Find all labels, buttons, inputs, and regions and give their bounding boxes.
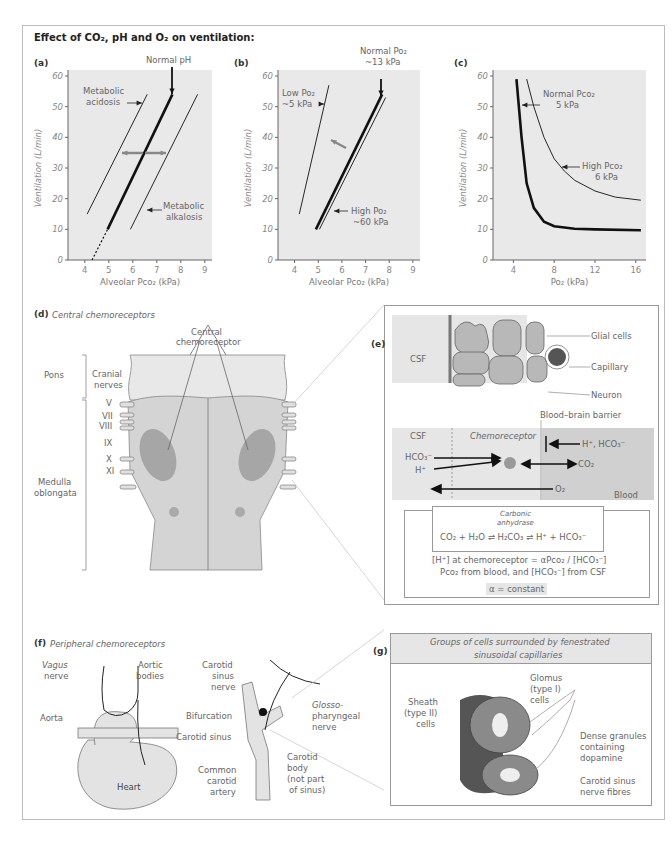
nerve-X: X	[106, 454, 112, 464]
carotid-sinus-label: Carotid sinus	[176, 732, 231, 742]
panel-g-label: (g)	[373, 646, 388, 656]
alpha-constant: α = constant	[486, 583, 547, 595]
csn-3: nerve	[211, 682, 235, 692]
nerve-VII: VII	[102, 411, 113, 421]
brainstem-drawing	[82, 325, 296, 570]
glomus-3: cells	[530, 695, 549, 705]
sheath-2: (type II)	[404, 708, 437, 718]
cranial-nerves-2: nerves	[94, 380, 123, 390]
carotid-body-3: (not part	[287, 774, 324, 784]
glosso-2: pharyngeal	[312, 711, 360, 721]
csn-2: sinus	[212, 671, 234, 681]
panel-f-title: Peripheral chemoreceptors	[50, 639, 165, 649]
heart-label: Heart	[117, 782, 141, 792]
carotid-body-2: body	[287, 763, 308, 773]
vagus-1: Vagus	[42, 660, 68, 670]
panel-e-label: (e)	[371, 339, 385, 349]
formula-note: Pco₂ from blood, and [HCO₃⁻] from CSF	[440, 567, 606, 577]
bifurcation-label: Bifurcation	[186, 711, 232, 721]
reaction-equation: CO₂ + H₂O ⇌ H₂CO₃ ⇌ H⁺ + HCO₃⁻	[440, 532, 586, 542]
nerve-V: V	[106, 398, 112, 408]
nerve-IX: IX	[104, 438, 112, 448]
carotid-body-1: Carotid	[287, 752, 318, 762]
medulla-2: oblongata	[34, 488, 77, 498]
panel-d-label: (d)	[34, 309, 49, 319]
glomus-2: (type I)	[530, 684, 561, 694]
nerve-fibres-1: Carotid sinus	[580, 776, 635, 786]
aortic-1: Aortic	[138, 660, 163, 670]
medulla-1: Medulla	[38, 477, 71, 487]
glosso-1: Glosso-	[312, 700, 343, 710]
panel-f-label: (f)	[34, 638, 46, 648]
co2-label: CO₂	[578, 459, 594, 469]
aorta-label: Aorta	[40, 713, 63, 723]
h-label: H⁺	[415, 465, 426, 475]
carotid-body-4: of sinus)	[289, 785, 325, 795]
o2-label: O₂	[555, 484, 565, 494]
vagus-2: nerve	[44, 671, 68, 681]
glosso-3: nerve	[312, 722, 336, 732]
csf2-label: CSF	[410, 431, 426, 441]
common-carotid-3: artery	[210, 787, 236, 797]
nerve-VIII: VIII	[99, 421, 112, 431]
aortic-2: bodies	[136, 671, 164, 681]
panel-d-title: Central chemoreceptors	[52, 310, 155, 320]
neuron-label: Neuron	[591, 390, 622, 400]
csn-1: Carotid	[202, 660, 233, 670]
glial-cells-label: Glial cells	[591, 331, 632, 341]
blood-label: Blood	[614, 490, 638, 500]
carotid-drawing	[242, 682, 283, 800]
sheath-1: Sheath	[408, 697, 438, 707]
panel-g-header-1: Groups of cells surrounded by fenestrate…	[430, 637, 610, 647]
cranial-nerves-1: Cranial	[92, 369, 122, 379]
h-hco3-label: H⁺, HCO₃⁻	[582, 439, 625, 449]
carbonic-1: Carbonic	[500, 510, 531, 518]
heart-drawing	[78, 712, 178, 810]
chemoreceptor-label: Chemoreceptor	[470, 431, 536, 441]
capillary-label: Capillary	[591, 362, 628, 372]
bbb-label: Blood–brain barrier	[540, 410, 621, 420]
nerve-fibres-2: nerve fibres	[580, 787, 631, 797]
sheath-3: cells	[416, 719, 435, 729]
pons-label: Pons	[44, 370, 64, 380]
common-carotid-1: Common	[198, 765, 236, 775]
granules-2: containing	[580, 742, 625, 752]
central-chemoreceptor-1: Central	[191, 327, 222, 337]
common-carotid-2: carotid	[207, 776, 236, 786]
granules-3: dopamine	[580, 753, 622, 763]
csf-label: CSF	[410, 354, 426, 364]
glomus-1: Glomus	[530, 673, 562, 683]
panel-g-header-2: sinusoidal capillaries	[474, 650, 562, 660]
central-chemoreceptor-2: chemoreceptor	[176, 337, 241, 347]
granules-1: Dense granules	[580, 731, 646, 741]
carbonic-2: anhydrase	[497, 519, 534, 527]
hco3-label: HCO₃⁻	[405, 452, 432, 462]
nerve-XI: XI	[106, 466, 114, 476]
h-formula: [H⁺] at chemoreceptor = αPco₂ / [HCO₃⁻]	[432, 555, 606, 565]
